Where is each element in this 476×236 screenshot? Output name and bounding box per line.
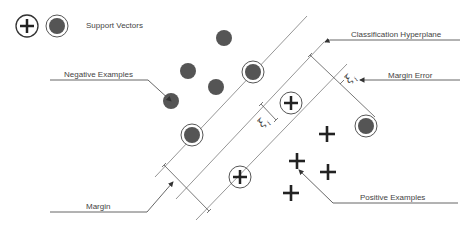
margin-indicator	[162, 163, 211, 213]
negative-examples-label: Negative Examples	[64, 70, 133, 79]
negative-examples	[163, 30, 232, 109]
slack-indicator-2	[308, 53, 375, 117]
positive-support-vectors	[229, 92, 302, 188]
positive-examples	[283, 126, 336, 201]
diagram-svg: Support Vectors	[0, 0, 476, 236]
hyperplane-callout	[325, 40, 460, 42]
slack-symbol-2: ξ i	[342, 72, 360, 86]
margin-label: Margin	[86, 202, 110, 211]
positive-examples-label: Positive Examples	[360, 193, 425, 202]
filled-dot-circle-icon	[46, 15, 68, 37]
margin-callout	[50, 182, 173, 212]
margin-error-label: Margin Error	[388, 71, 433, 80]
plus-circle-icon	[16, 15, 38, 37]
hyperplanes	[155, 16, 347, 220]
negative-examples-callout	[50, 80, 171, 101]
classification-hyperplane-label: Classification Hyperplane	[351, 30, 442, 39]
negative-point	[208, 79, 224, 95]
legend-label: Support Vectors	[86, 21, 143, 30]
negative-point	[180, 63, 196, 79]
slack-symbol-1: ξ i	[255, 116, 273, 130]
svm-diagram: Support Vectors	[0, 0, 476, 236]
negative-point	[216, 30, 232, 46]
legend: Support Vectors	[16, 15, 143, 37]
